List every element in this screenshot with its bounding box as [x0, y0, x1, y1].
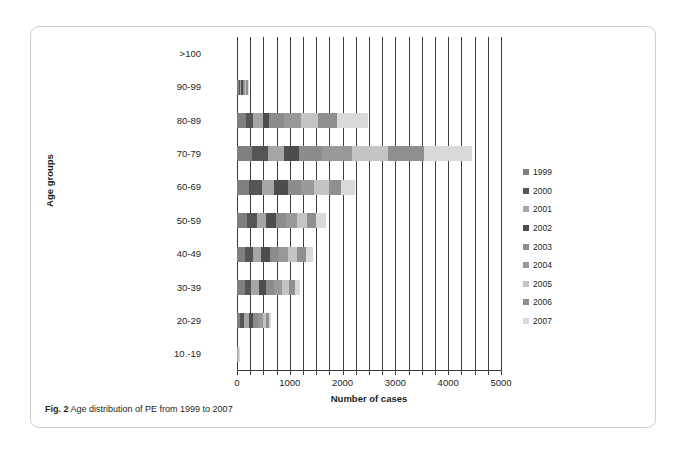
bar-segment: [314, 180, 329, 195]
legend-label: 1999: [533, 167, 552, 177]
bar-segment: [253, 113, 264, 128]
bar-segment: [237, 113, 246, 128]
bar-segment: [288, 180, 301, 195]
bar-segment: [276, 213, 287, 228]
legend-item[interactable]: 2000: [523, 182, 593, 201]
bar-row: [237, 171, 355, 204]
figure-card: >10090-9980-8970-7960-6950-5940-4930-392…: [30, 26, 656, 428]
bar-row: [237, 304, 271, 337]
legend-item[interactable]: 2001: [523, 200, 593, 219]
tick-mark: [356, 371, 357, 375]
bar-segment: [286, 213, 297, 228]
bar-segment: [282, 280, 289, 295]
legend-label: 2006: [533, 297, 552, 307]
legend-item[interactable]: 2005: [523, 275, 593, 294]
legend-item[interactable]: 2004: [523, 256, 593, 275]
legend-label: 2000: [533, 186, 552, 196]
x-axis-label: 4000: [428, 377, 468, 388]
bar-segment: [301, 180, 314, 195]
bar-segment: [245, 247, 253, 262]
bar-segment: [288, 247, 297, 262]
legend-label: 2002: [533, 223, 552, 233]
legend-swatch-icon: [523, 206, 529, 212]
y-axis-label: 60-69: [131, 182, 201, 192]
x-axis-label: 5000: [481, 377, 521, 388]
y-axis-label: 90-99: [131, 82, 201, 92]
tick-mark: [501, 371, 502, 375]
tick-mark: [369, 371, 370, 375]
bar-segment: [249, 180, 262, 195]
legend-item[interactable]: 2002: [523, 219, 593, 238]
chart-legend: 199920002001200220032004200520062007: [523, 163, 593, 330]
bar-segment: [252, 146, 268, 161]
bar-segment: [284, 146, 299, 161]
bar-segment: [337, 113, 368, 128]
legend-label: 2003: [533, 242, 552, 252]
y-axis-label: 40-49: [131, 249, 201, 259]
bar-segment: [246, 113, 253, 128]
y-axis-label: 20-29: [131, 316, 201, 326]
legend-item[interactable]: 2007: [523, 312, 593, 331]
tick-mark: [395, 371, 396, 375]
legend-swatch-icon: [523, 188, 529, 194]
legend-item[interactable]: 2006: [523, 293, 593, 312]
bar-segment: [248, 80, 250, 95]
tick-mark: [329, 371, 330, 375]
legend-label: 2001: [533, 204, 552, 214]
legend-swatch-icon: [523, 318, 529, 324]
y-axis-label: >100: [131, 49, 201, 59]
bar-segment: [270, 247, 279, 262]
bar-segment: [299, 146, 322, 161]
tick-mark: [316, 371, 317, 375]
figure-caption-label: Fig. 2: [45, 404, 69, 414]
bar-segment: [295, 280, 300, 295]
x-axis-labels: 010002000300040005000: [237, 377, 501, 391]
bar-segment: [266, 213, 276, 228]
y-axis-title: Age groups: [44, 154, 55, 207]
x-axis-label: 3000: [375, 377, 415, 388]
tick-mark: [277, 371, 278, 375]
legend-label: 2007: [533, 316, 552, 326]
bar-segment: [237, 146, 252, 161]
tick-mark: [343, 371, 344, 375]
y-axis-label: 10.-19: [131, 349, 201, 359]
bar-segment: [237, 213, 247, 228]
legend-label: 2005: [533, 279, 552, 289]
y-axis-labels: >10090-9980-8970-7960-6950-5940-4930-392…: [131, 37, 201, 371]
bar-segment: [329, 180, 341, 195]
figure-caption: Fig. 2 Age distribution of PE from 1999 …: [45, 403, 641, 415]
bar-segment: [352, 146, 389, 161]
tick-mark: [448, 371, 449, 375]
legend-item[interactable]: 1999: [523, 163, 593, 182]
bar-segment: [322, 146, 352, 161]
bar-segment: [297, 213, 307, 228]
bar-segment: [284, 113, 301, 128]
bar-row: [237, 271, 300, 304]
bar-segment: [253, 247, 261, 262]
legend-swatch-icon: [523, 244, 529, 250]
legend-swatch-icon: [523, 262, 529, 268]
tick-mark: [263, 371, 264, 375]
bar-segment: [251, 280, 259, 295]
bar-segment: [341, 180, 355, 195]
bar-row: [237, 137, 472, 170]
bar-segment: [318, 113, 337, 128]
bar-segment: [269, 313, 271, 328]
tick-mark: [488, 371, 489, 375]
legend-item[interactable]: 2003: [523, 237, 593, 256]
y-axis-label: 70-79: [131, 149, 201, 159]
bar-row: [237, 338, 239, 371]
tick-mark: [237, 371, 238, 375]
chart-axes: [237, 37, 501, 371]
bar-segment: [266, 280, 274, 295]
bar-segment: [306, 247, 313, 262]
bar-segment: [237, 247, 245, 262]
gridline: [501, 37, 502, 371]
x-axis-label: 0: [217, 377, 257, 388]
tick-mark: [290, 371, 291, 375]
legend-swatch-icon: [523, 299, 529, 305]
tick-mark: [382, 371, 383, 375]
bar-segment: [274, 280, 282, 295]
bar-segment: [247, 213, 257, 228]
bar-segment: [268, 146, 284, 161]
